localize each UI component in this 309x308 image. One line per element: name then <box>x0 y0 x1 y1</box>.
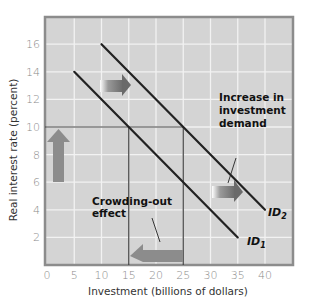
annotation-crowding-line2: effect <box>92 207 126 219</box>
x-axis-label: Investment (billions of dollars) <box>88 285 248 297</box>
x-tick: 40 <box>258 269 272 282</box>
y-tick: 6 <box>33 176 40 189</box>
y-tick: 2 <box>33 231 40 244</box>
x-tick: 30 <box>204 269 218 282</box>
annotation-increase-line2: investment <box>219 104 286 116</box>
y-axis-ticks: 246810121416 <box>26 38 40 244</box>
annotation-increase-line3: demand <box>219 117 267 129</box>
x-tick: 0 <box>44 269 51 282</box>
x-tick: 5 <box>71 269 78 282</box>
x-tick: 20 <box>149 269 163 282</box>
y-tick: 16 <box>26 38 40 51</box>
y-axis-label: Real interest rate (percent) <box>7 79 19 222</box>
x-tick: 10 <box>95 269 109 282</box>
y-tick: 4 <box>33 204 40 217</box>
annotation-crowding-line1: Crowding-out <box>92 195 172 207</box>
y-tick: 8 <box>33 149 40 162</box>
x-tick: 35 <box>231 269 245 282</box>
x-axis-ticks: 0510152025303540 <box>44 269 273 282</box>
x-tick: 25 <box>176 269 190 282</box>
x-tick: 15 <box>122 269 136 282</box>
y-tick: 12 <box>26 93 40 106</box>
y-tick: 10 <box>26 121 40 134</box>
chart: Increase in investment demand Crowding-o… <box>0 0 309 308</box>
annotation-increase-line1: Increase in <box>219 91 284 103</box>
plot-area <box>45 17 293 265</box>
y-tick: 14 <box>26 66 40 79</box>
